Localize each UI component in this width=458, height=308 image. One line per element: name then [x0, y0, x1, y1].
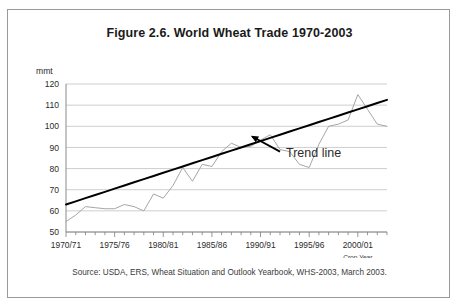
figure-frame: Figure 2.6. World Wheat Trade 1970-2003 …: [7, 9, 450, 298]
x-tick-label: 1975/76: [99, 240, 130, 250]
wheat-trade-line-chart: 5060708090100110120mmt 1970/711975/76198…: [8, 48, 451, 258]
y-tick-label: 80: [49, 164, 59, 174]
x-tick-label: 1990/91: [245, 240, 276, 250]
y-tick-label: 120: [45, 79, 60, 89]
source-note: Source: USDA, ERS, Wheat Situation and O…: [8, 268, 451, 277]
chart-area: 5060708090100110120mmt 1970/711975/76198…: [8, 48, 451, 258]
x-axis: 1970/711975/761980/811985/861990/911995/…: [51, 232, 387, 258]
y-axis: 5060708090100110120mmt: [36, 66, 66, 237]
x-tick-label: 1995/96: [294, 240, 325, 250]
x-tick-label: 2000/01: [343, 240, 374, 250]
y-tick-label: 50: [49, 227, 59, 237]
trend-line-label: Trend line: [286, 146, 341, 160]
y-tick-label: 60: [49, 206, 59, 216]
x-axis-caption: Crop Year: [343, 254, 373, 258]
x-tick-label: 1970/71: [51, 240, 82, 250]
x-tick-label: 1985/86: [197, 240, 228, 250]
y-tick-label: 100: [45, 121, 60, 131]
figure-title: Figure 2.6. World Wheat Trade 1970-2003: [8, 26, 451, 40]
y-axis-unit-label: mmt: [36, 66, 53, 76]
x-tick-label: 1980/81: [148, 240, 179, 250]
y-tick-label: 90: [49, 143, 59, 153]
y-tick-label: 70: [49, 185, 59, 195]
y-tick-label: 110: [45, 100, 59, 110]
